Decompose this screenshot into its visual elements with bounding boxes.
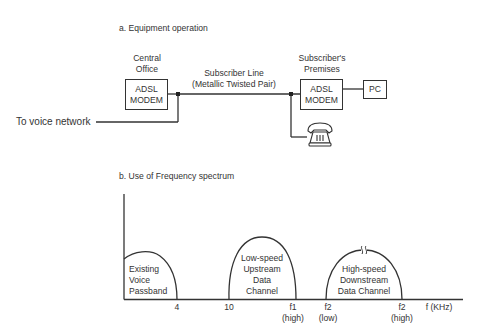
subscriber-premises-label-2: Premises [304, 64, 340, 75]
tick-f2-high-1: f2 [398, 302, 405, 313]
co-modem-line2: MODEM [130, 95, 163, 106]
tick-4: 4 [175, 302, 180, 313]
upstream-band-label-3: Data [253, 275, 271, 286]
diagram-lines [0, 0, 478, 331]
co-modem-line1: ADSL [135, 84, 157, 95]
downstream-band-label-2: Downstream [340, 275, 388, 286]
pc-label: PC [369, 84, 381, 95]
x-axis-label: f (KHz) [426, 302, 453, 313]
tick-f2-low-1: f2 [324, 302, 331, 313]
pc-box: PC [363, 80, 387, 99]
tick-f2-low-2: (low) [319, 313, 338, 324]
sub-modem-line2: MODEM [305, 95, 338, 106]
central-office-label-1: Central [133, 53, 161, 64]
subscriber-line-label-2: (Metallic Twisted Pair) [192, 79, 276, 90]
central-office-adsl-modem: ADSL MODEM [125, 79, 168, 110]
upstream-band-label-1: Low-speed [241, 253, 283, 264]
downstream-band-label-1: High-speed [342, 264, 386, 275]
break-mark-icon [361, 246, 367, 254]
subscriber-junction-dot [289, 92, 293, 96]
subscriber-line-label-1: Subscriber Line [204, 68, 264, 79]
sub-modem-line1: ADSL [310, 84, 332, 95]
voice-band-label-3: Passband [129, 286, 167, 297]
downstream-band-label-3: Data Channel [338, 286, 391, 297]
tick-f1-high-1: f1 [289, 302, 296, 313]
subscriber-adsl-modem: ADSL MODEM [300, 79, 343, 110]
voice-network-label: To voice network [16, 116, 90, 127]
telephone-icon [308, 123, 332, 146]
section-a-title: a. Equipment operation [119, 23, 208, 34]
section-b-title: b. Use of Frequency spectrum [119, 171, 234, 182]
voice-band-label-2: Voice [129, 275, 150, 286]
central-office-label-2: Office [136, 64, 158, 75]
upstream-band-label-2: Upstream [243, 264, 280, 275]
voice-band-label-1: Existing [129, 264, 159, 275]
subscriber-premises-label-1: Subscriber's [298, 53, 345, 64]
upstream-band-label-4: Channel [246, 286, 278, 297]
tick-10: 10 [224, 302, 234, 313]
tick-f2-high-2: (high) [391, 313, 413, 324]
co-junction-dot [176, 92, 180, 96]
tick-f1-high-2: (high) [282, 313, 304, 324]
